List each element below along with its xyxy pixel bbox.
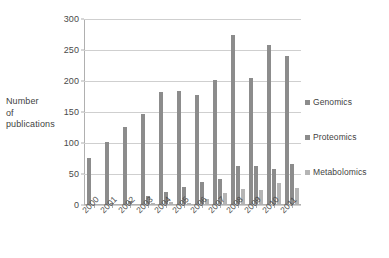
y-axis-tick-label: 50 (69, 169, 79, 179)
bar (123, 127, 127, 204)
bar (105, 142, 109, 204)
legend-swatch-icon (305, 135, 310, 140)
legend-item-metabolomics[interactable]: Metabolomics (305, 167, 389, 177)
bars-layer (85, 19, 301, 204)
legend-label: Genomics (313, 97, 352, 107)
legend-item-proteomics[interactable]: Proteomics (305, 132, 389, 142)
y-axis-tick-label: 200 (64, 76, 79, 86)
bar (213, 80, 217, 204)
y-axis-title-line-1: Number (6, 96, 68, 108)
y-axis-tick-mark (81, 81, 84, 82)
bar (141, 114, 145, 204)
chart-legend: GenomicsProteomicsMetabolomics (305, 97, 389, 202)
y-axis-title-line-2: of (6, 108, 68, 120)
legend-label: Metabolomics (313, 167, 367, 177)
y-axis-tick-label: 100 (64, 138, 79, 148)
bar-group (283, 19, 301, 204)
bar-group (139, 19, 157, 204)
bar-group (175, 19, 193, 204)
legend-swatch-icon (305, 100, 310, 105)
bar (177, 91, 181, 204)
legend-swatch-icon (305, 170, 310, 175)
bar (285, 56, 289, 204)
bar (267, 45, 271, 204)
bar-group (229, 19, 247, 204)
bar (159, 92, 163, 204)
bar-group (193, 19, 211, 204)
y-axis-tick-mark (81, 50, 84, 51)
bar-group (103, 19, 121, 204)
bar (195, 95, 199, 204)
bar-group (265, 19, 283, 204)
y-axis-tick-mark (81, 174, 84, 175)
y-axis-tick-mark (81, 112, 84, 113)
publications-bar-chart: Number of publications 05010015020025030… (0, 0, 389, 258)
bar-group (121, 19, 139, 204)
plot-area: 050100150200250300 (84, 19, 301, 205)
y-axis-title: Number of publications (6, 96, 68, 131)
legend-label: Proteomics (313, 132, 357, 142)
y-axis-tick-mark (81, 143, 84, 144)
bar-group (247, 19, 265, 204)
bar (249, 78, 253, 204)
bar-group (211, 19, 229, 204)
y-axis-tick-label: 150 (64, 107, 79, 117)
y-axis-tick-label: 0 (74, 200, 79, 210)
bar-group (157, 19, 175, 204)
bar-group (85, 19, 103, 204)
y-axis-tick-mark (81, 19, 84, 20)
bar (231, 35, 235, 204)
y-axis-tick-label: 300 (64, 14, 79, 24)
y-axis-title-line-3: publications (6, 119, 68, 131)
y-axis-tick-label: 250 (64, 45, 79, 55)
legend-item-genomics[interactable]: Genomics (305, 97, 389, 107)
